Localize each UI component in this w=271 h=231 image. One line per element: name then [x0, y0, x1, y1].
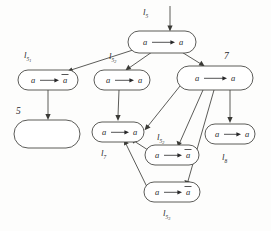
node-l51[interactable]: a a [18, 70, 78, 90]
svg-text:a: a [133, 127, 137, 137]
tag-node-top-sub: 5 [146, 13, 149, 19]
edge-node7-to-l7 [145, 86, 181, 130]
svg-text:a: a [138, 75, 142, 85]
graph-svg: a a a a [0, 0, 271, 231]
svg-text:l52: l52 [109, 51, 116, 64]
tag-node-l7-sub: 7 [104, 154, 107, 160]
svg-text:a: a [195, 73, 199, 83]
tag-node-7-text: 7 [224, 51, 230, 61]
edge-l52-to-l7 [115, 90, 120, 121]
node-l7[interactable]: a a [92, 122, 144, 142]
tag-node-5: 5 [16, 106, 21, 116]
edge-top-to-l51 [67, 50, 133, 72]
node-top[interactable]: a a [128, 31, 196, 53]
svg-text:l8: l8 [222, 152, 228, 164]
node-l53[interactable]: a a [144, 182, 200, 202]
node-5-empty[interactable] [14, 120, 80, 148]
tag-node-l8: l8 [222, 152, 228, 164]
svg-text:a: a [231, 73, 235, 83]
svg-text:a: a [102, 127, 106, 137]
svg-text:a: a [63, 75, 67, 85]
diagram-canvas: a a a a [0, 0, 271, 231]
tag-node-5-text: 5 [16, 106, 21, 116]
tag-node-l51: l51 [24, 50, 31, 63]
tag-node-l53: l53 [163, 208, 170, 221]
svg-text:l7: l7 [101, 148, 107, 160]
svg-text:l52: l52 [157, 132, 164, 145]
tag-node-7: 7 [224, 51, 230, 61]
tag-node-l7: l7 [101, 148, 107, 160]
node-l8[interactable]: a a [205, 124, 255, 144]
svg-text:a: a [155, 187, 159, 197]
svg-text:a: a [143, 37, 147, 47]
node-5-shape[interactable] [14, 120, 80, 148]
node-l52b[interactable]: a a [145, 145, 199, 165]
svg-text:a: a [179, 37, 183, 47]
tag-node-l51-subsub: 1 [29, 58, 31, 63]
tag-node-l52b: l52 [157, 132, 164, 145]
edge-top-to-l52 [125, 52, 152, 71]
tag-node-l52: l52 [109, 51, 116, 64]
svg-text:a: a [186, 187, 190, 197]
svg-text:a: a [155, 150, 159, 160]
svg-text:l51: l51 [24, 50, 31, 63]
tag-node-l53-subsub: 3 [168, 216, 170, 221]
edge-l53-to-l7 [124, 139, 147, 187]
svg-text:a: a [245, 129, 249, 139]
tag-node-top: l5 [143, 7, 149, 19]
edge-entry-arrow [167, 6, 172, 32]
edge-node7-to-l8 [227, 90, 232, 123]
edge-l51-to-node5 [45, 90, 50, 120]
tag-node-l52-subsub: 2 [114, 59, 116, 64]
svg-text:a: a [186, 150, 190, 160]
node-l52[interactable]: a a [94, 70, 150, 90]
node-7[interactable]: a a [177, 66, 253, 90]
svg-text:a: a [31, 75, 35, 85]
tag-node-l52b-subsub: 2 [162, 140, 164, 145]
edge-node7-to-l52b [177, 90, 203, 147]
tag-node-l8-sub: 8 [225, 158, 228, 164]
node-layer: a a a a [14, 31, 255, 202]
svg-text:a: a [106, 75, 110, 85]
svg-text:l5: l5 [143, 7, 149, 19]
svg-text:l53: l53 [163, 208, 170, 221]
svg-text:a: a [215, 129, 219, 139]
